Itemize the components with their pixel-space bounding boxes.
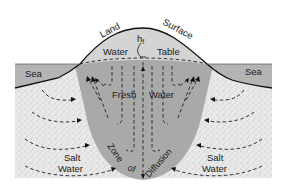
label-water-table-table: Table [157,46,180,57]
label-salt-water-right: Water [202,163,227,174]
label-salt-left: Salt [64,152,81,163]
label-fresh: Fresh [112,89,136,100]
label-sea-right: Sea [245,66,263,77]
label-water-table-water: Water [103,46,128,57]
label-salt-right: Salt [207,152,224,163]
freshwater-lens-diagram: Land Surface hf Water Table Sea Sea Fres… [0,0,287,194]
label-sea-left: Sea [25,68,43,79]
label-fresh-water: Water [149,89,174,100]
label-salt-water-left: Water [58,163,83,174]
